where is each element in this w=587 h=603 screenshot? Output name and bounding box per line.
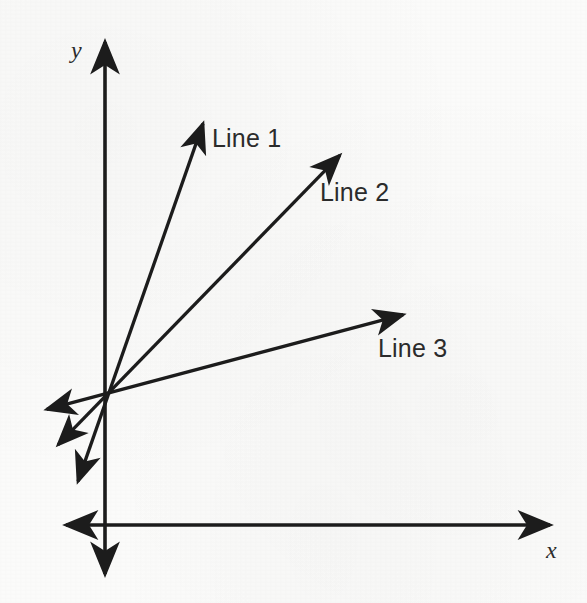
ray-line-1: [78, 124, 203, 482]
line-1-label: Line 1: [212, 126, 281, 151]
ray-line-3: [47, 315, 403, 410]
x-axis-label: x: [546, 538, 557, 562]
line-slopes-figure: Line 1 Line 2 Line 3 y x: [0, 0, 587, 603]
line-3-label: Line 3: [378, 336, 447, 361]
coordinate-plane-svg: [0, 0, 587, 603]
y-axis-label: y: [71, 38, 82, 62]
ray-line-2: [58, 155, 340, 444]
line-2-label: Line 2: [320, 180, 389, 205]
